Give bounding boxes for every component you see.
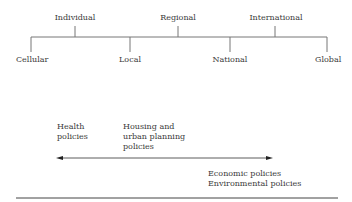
housing-policies-label: Housing and urban planning policies <box>123 122 185 152</box>
economic-environmental-policies-label: Economic policies Environmental policies <box>208 169 301 189</box>
label-regional: Regional <box>160 13 196 23</box>
label-individual: Individual <box>55 13 96 23</box>
arrowhead-right-icon <box>266 156 273 160</box>
label-cellular: Cellular <box>16 55 48 65</box>
label-international: International <box>249 13 302 23</box>
health-policies-label: Health policies <box>57 122 88 142</box>
label-local: Local <box>119 55 141 65</box>
label-global: Global <box>315 55 341 65</box>
arrowhead-left-icon <box>56 156 63 160</box>
label-national: National <box>213 55 248 65</box>
